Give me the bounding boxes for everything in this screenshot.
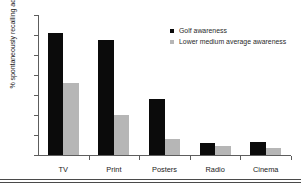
y-axis-tick [34, 75, 38, 76]
x-axis-tick-label: TV [59, 165, 68, 174]
bar-group [48, 15, 79, 155]
legend-item: Lower medium average awareness [170, 37, 286, 48]
x-axis-tick [139, 156, 140, 160]
bar [165, 139, 181, 155]
legend: Golf awareness Lower medium average awar… [170, 26, 286, 47]
y-axis-tick [34, 95, 38, 96]
x-axis-tick-label: Posters [152, 165, 177, 174]
bar [114, 115, 130, 155]
footer-rule [0, 182, 301, 183]
x-axis-tick [291, 156, 292, 160]
y-axis-title: % spontaneously recalling advertising [9, 0, 17, 99]
bar [200, 143, 216, 155]
footer-rule [0, 179, 301, 180]
legend-swatch-icon [170, 40, 174, 44]
y-axis-tick [34, 135, 38, 136]
bar [149, 99, 165, 155]
x-axis-tick [89, 156, 90, 160]
y-axis-tick [34, 115, 38, 116]
legend-label: Lower medium average awareness [179, 37, 286, 48]
legend-item: Golf awareness [170, 26, 286, 37]
bar-chart: % spontaneously recalling advertising 05… [0, 0, 301, 186]
bar [215, 146, 231, 155]
y-axis-tick [34, 35, 38, 36]
legend-label: Golf awareness [179, 26, 227, 37]
x-axis-tick [240, 156, 241, 160]
y-axis-line [38, 15, 39, 156]
bar [98, 40, 114, 155]
x-axis-tick-label: Cinema [253, 165, 278, 174]
bar [48, 33, 64, 155]
y-axis-tick [34, 55, 38, 56]
y-axis-tick [34, 155, 38, 156]
x-axis-tick [190, 156, 191, 160]
x-axis-line [38, 155, 291, 156]
bar-group [98, 15, 129, 155]
bar [63, 83, 79, 155]
x-axis-tick-label: Print [106, 165, 121, 174]
y-axis-tick [34, 15, 38, 16]
bar [266, 148, 282, 155]
legend-swatch-icon [170, 29, 174, 33]
x-axis-tick-label: Radio [205, 165, 224, 174]
bar [250, 142, 266, 155]
